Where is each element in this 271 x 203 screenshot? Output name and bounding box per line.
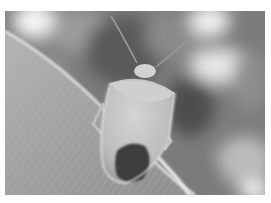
photo bbox=[5, 11, 265, 195]
stink-bug-photo bbox=[5, 11, 265, 195]
